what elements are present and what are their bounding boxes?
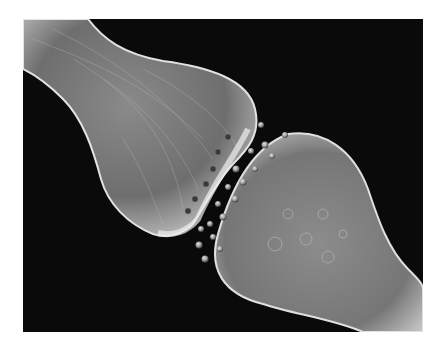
presynaptic-terminal (23, 19, 256, 236)
postsynaptic-terminal (215, 133, 423, 332)
synapse-svg (23, 19, 423, 332)
synapse-illustration (23, 19, 423, 332)
